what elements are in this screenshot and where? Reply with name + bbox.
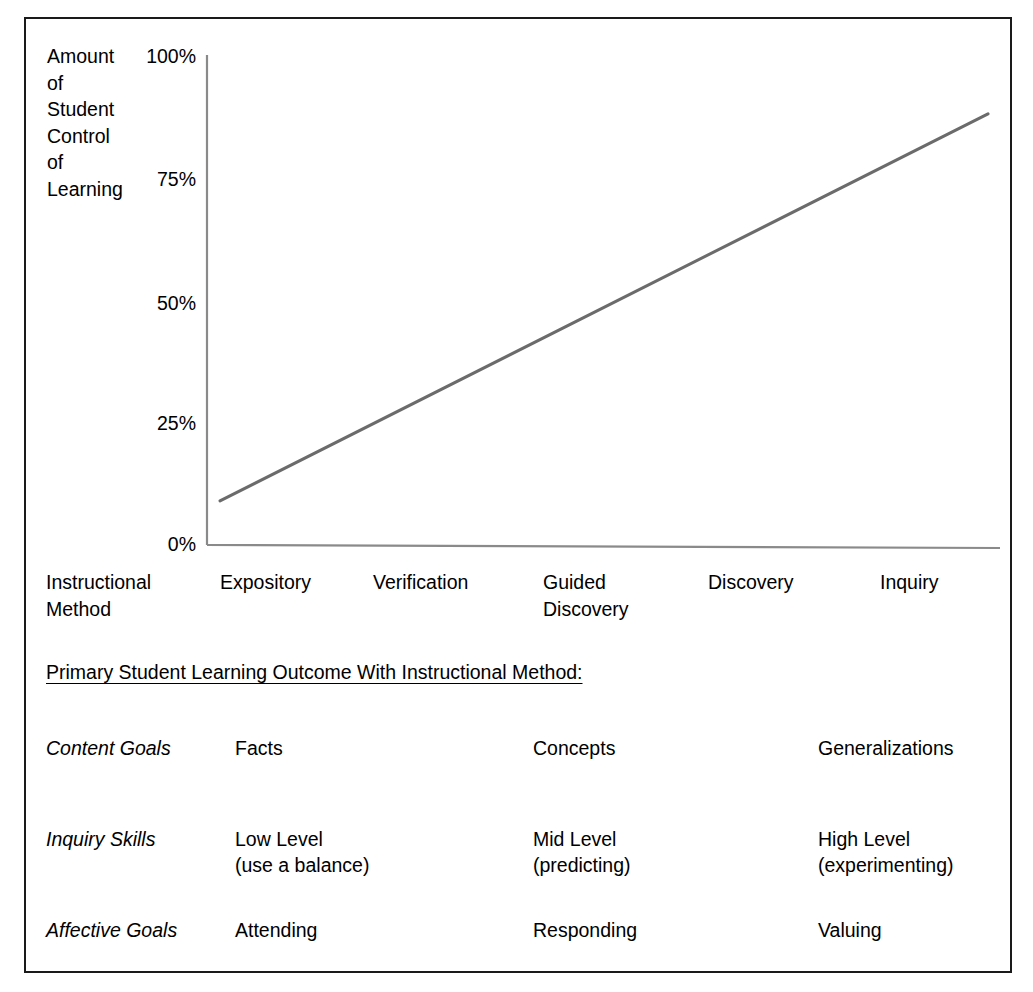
outcomes-section-header: Primary Student Learning Outcome With In… (46, 660, 583, 684)
outcome-cell: Concepts (533, 735, 615, 761)
y-tick-label-25: 25% (124, 412, 196, 434)
outcome-cell: Facts (235, 735, 283, 761)
outcome-row-label: Content Goals (46, 735, 171, 761)
outcome-cell: Attending (235, 917, 317, 943)
outcome-cell: Generalizations (818, 735, 954, 761)
trend-line (220, 114, 988, 501)
y-tick-label-50: 50% (124, 292, 196, 314)
chart-axes-and-line (0, 0, 1033, 560)
outcome-row-label: Affective Goals (46, 917, 177, 943)
y-tick-label-0: 0% (124, 533, 196, 555)
outcome-cell: Mid Level (predicting) (533, 826, 631, 878)
x-category-expository: Expository (220, 569, 311, 596)
outcome-cell: High Level (experimenting) (818, 826, 953, 878)
chart-area: Amount of Student Control of Learning 10… (0, 0, 1033, 560)
x-axis-title: Instructional Method (46, 569, 151, 623)
x-category-discovery: Discovery (708, 569, 794, 596)
y-tick-label-75: 75% (124, 168, 196, 190)
outcome-cell: Valuing (818, 917, 882, 943)
x-category-verification: Verification (373, 569, 468, 596)
x-category-inquiry: Inquiry (880, 569, 939, 596)
outcome-cell: Low Level (use a balance) (235, 826, 369, 878)
y-tick-label-100: 100% (124, 45, 196, 67)
x-category-guided-discovery: Guided Discovery (543, 569, 629, 623)
outcome-cell: Responding (533, 917, 637, 943)
x-axis-label-row: Instructional Method Expository Verifica… (0, 562, 1033, 632)
x-axis-line (207, 545, 1000, 548)
outcome-row-label: Inquiry Skills (46, 826, 155, 852)
figure-root: Amount of Student Control of Learning 10… (0, 0, 1033, 992)
